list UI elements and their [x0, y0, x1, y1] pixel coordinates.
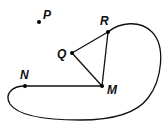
- label-M: M: [107, 83, 118, 97]
- label-N: N: [20, 68, 29, 82]
- point-P: [37, 20, 41, 24]
- point-M: [100, 84, 104, 88]
- label-R: R: [100, 14, 109, 28]
- point-Q: [70, 51, 74, 55]
- segment-QM: [72, 53, 102, 86]
- label-P: P: [43, 8, 52, 22]
- geometry-diagram: P R Q M N: [0, 0, 167, 127]
- curve-RN: [8, 24, 161, 120]
- point-R: [106, 30, 110, 34]
- segment-RM: [102, 32, 108, 86]
- diagram-svg: P R Q M N: [0, 0, 167, 127]
- label-Q: Q: [57, 47, 67, 61]
- point-N: [23, 84, 27, 88]
- segment-QR: [72, 32, 108, 53]
